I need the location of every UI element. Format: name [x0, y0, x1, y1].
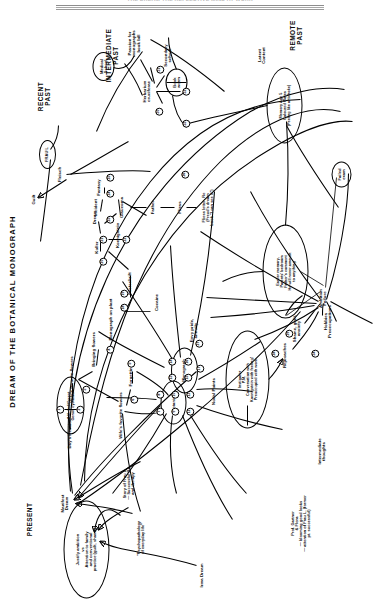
page-title: DREAM OF THE BOTANICAL MONOGRAPH: [8, 215, 16, 407]
node-fliess-letter: Fliess letter- Re (Freud's dream book "I…: [201, 189, 213, 225]
oval-coloured-plates: Memory Age 5 Coloured Plates (Peeling li…: [266, 67, 302, 143]
header-rule-2: [56, 7, 324, 8]
oval-earlier-memory: Earlier memory, Parents' bedroom Father'…: [262, 224, 308, 318]
circled-number: 3: [82, 385, 90, 393]
circled-number: 16: [184, 357, 192, 365]
circled-number: 2: [76, 405, 84, 413]
connector-lines: [0, 12, 378, 611]
circled-number: 22: [122, 235, 130, 243]
era-label-present: PRESENT: [27, 502, 34, 536]
era-label-remote-past: REMOTE PAST: [289, 20, 302, 50]
node-days-residue-label: Day's Residue: [68, 418, 72, 448]
circled-number: 23: [106, 215, 114, 223]
circled-number: 1: [56, 405, 64, 413]
node-monograph-on-plant: Monograph on plant: [109, 298, 113, 340]
node-guilt: Guilt: [32, 194, 36, 204]
circled-number: 33: [182, 119, 190, 127]
node-festschrift: Festschrift: [128, 272, 132, 295]
header-rule-1: [56, 5, 324, 6]
circled-number: 20: [99, 257, 107, 265]
node-irma-dream: Irma Dream: [200, 563, 204, 587]
oval-monograph: Monograph: [171, 347, 198, 393]
node-shame-guilt-anxiety: Shame, guilt, anxiety: [293, 314, 302, 341]
circled-number: 15: [184, 373, 192, 381]
node-hobbies-preoccupations: Hobbies Preoccupations: [324, 305, 333, 338]
circled-number: 4: [106, 345, 114, 353]
circled-number: 34: [311, 349, 319, 357]
circled-number: 31: [156, 65, 164, 73]
node-story-frau-l: Story of Frau L. — Successful Rx and the…: [122, 467, 134, 499]
node-bringing-flowers: Bringing flowers: [92, 332, 96, 367]
diagram-page: THE DREAM THE REFLECTIVE MIND AT WORK: [0, 0, 378, 611]
node-secondary-school: Secondary school: [164, 44, 173, 66]
circled-number: 25: [106, 173, 114, 181]
node-manifest-dream: Manifest Dream: [61, 494, 70, 512]
circled-number: 12: [186, 390, 194, 398]
node-koenigstein: Koenigstein: [116, 222, 120, 247]
node-passion-monographs: Passion for monographs book bill: [127, 30, 140, 57]
oval-justify-ambition: Justify ambition vs Attention to family …: [63, 500, 109, 598]
label-latent-content: Latent Content: [258, 47, 267, 64]
circled-number: 17: [196, 364, 204, 372]
node-incident: Incident: [94, 199, 98, 216]
era-label-recent-past: RECENT PAST: [37, 81, 50, 110]
circled-number: 14: [168, 357, 176, 365]
circled-number: 6: [130, 395, 138, 403]
circled-number: 21: [99, 235, 107, 243]
circled-number: 29: [285, 329, 293, 337]
node-koller: Koller: [95, 241, 99, 253]
circled-number: 32: [182, 87, 190, 95]
node-herbarium-cruciferae: Herbarium cruciferae: [143, 80, 152, 102]
circled-number: 5: [127, 359, 135, 367]
node-reproaches: Reproaches: [283, 342, 287, 367]
circled-number: 26: [181, 170, 189, 178]
circled-number: 28: [271, 349, 279, 357]
node-wifes-favorite-flowers-2: Wife's favorite flowers: [119, 392, 123, 439]
circled-number: 8: [156, 390, 164, 398]
node-fantasy: Fantasy: [97, 179, 101, 196]
circled-number: 9: [171, 407, 179, 415]
node-glaucoma: Glaucoma: [120, 196, 124, 217]
node-nodal-points: Nodal Points: [212, 378, 216, 405]
oval-instigator: Instigator P.M. Conversation with Koenig…: [225, 330, 269, 428]
circled-number: 11: [186, 407, 194, 415]
node-psychopathology: "Psychopathology of everyday life": [136, 520, 144, 555]
rotated-canvas: DREAM OF THE BOTANICAL MONOGRAPH PRESENT…: [0, 12, 378, 611]
node-envy-pride: Envy pride, annuity: [190, 318, 199, 342]
node-wifes-favorite-flowers: Wife's favorite flowers: [70, 356, 74, 403]
circled-number: 10: [171, 390, 179, 398]
node-father: Father: [151, 200, 155, 213]
node-prof-gartner: Prof. Gartner & Flora — blooming good lo…: [290, 495, 310, 551]
circled-number: 24: [106, 189, 114, 197]
node-fleisch: Fleisch: [58, 166, 62, 181]
header-rule-3: [56, 9, 324, 10]
circled-number: 13: [168, 373, 176, 381]
circled-number: 18: [120, 303, 128, 311]
diagram-stage: DREAM OF THE BOTANICAL MONOGRAPH PRESENT…: [0, 12, 378, 611]
oval-medical-school: Medical School: [92, 52, 114, 81]
running-head: THE DREAM THE REFLECTIVE MIND AT WORK: [64, 0, 316, 2]
node-cocaine: Cocaine: [155, 293, 159, 310]
circled-number: 7: [156, 407, 164, 415]
node-fliess: Fliess: [178, 201, 182, 213]
oval-frau-l: FRAU L: [39, 140, 56, 169]
circled-number: 30: [155, 107, 163, 115]
label-intermediate-thoughts: Intermediate thoughts: [318, 438, 327, 464]
oval-failed-exam: Failed exam: [331, 161, 351, 187]
circled-number: 27: [195, 339, 203, 347]
circled-number: 19: [120, 289, 128, 297]
